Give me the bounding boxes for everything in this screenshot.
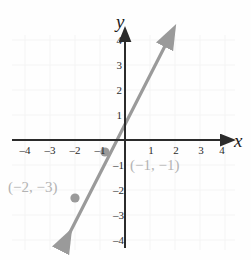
y-tick-pos1: 1 — [106, 110, 122, 121]
y-tick-neg3: –3 — [108, 210, 124, 221]
y-tick-neg2: –2 — [108, 185, 124, 196]
y-tick-pos2: 2 — [106, 85, 122, 96]
y-axis-label: y — [116, 12, 124, 31]
coordinate-plane-figure: y x –4 –3 –2 –1 1 2 3 4 4 3 2 1 –1 –2 –3… — [0, 0, 251, 260]
x-tick-neg2: –2 — [66, 145, 84, 156]
plot-canvas — [0, 0, 251, 260]
point-label-neg2-neg3: (−2, −3) — [8, 180, 57, 195]
y-tick-pos4: 4 — [106, 35, 122, 46]
point-label-neg1-neg1: (−1, −1) — [130, 158, 179, 173]
x-tick-neg3: –3 — [41, 145, 59, 156]
x-tick-neg4: –4 — [16, 145, 34, 156]
y-tick-neg1: –1 — [108, 160, 124, 171]
y-tick-pos3: 3 — [106, 60, 122, 71]
x-tick-pos3: 3 — [192, 145, 210, 156]
x-tick-pos1: 1 — [142, 145, 160, 156]
x-tick-pos2: 2 — [167, 145, 185, 156]
x-tick-pos4: 4 — [213, 145, 231, 156]
y-tick-neg4: –4 — [108, 235, 124, 246]
data-point-neg2-neg3 — [70, 193, 79, 202]
x-axis-label: x — [234, 131, 242, 150]
x-tick-neg1: –1 — [91, 145, 109, 156]
